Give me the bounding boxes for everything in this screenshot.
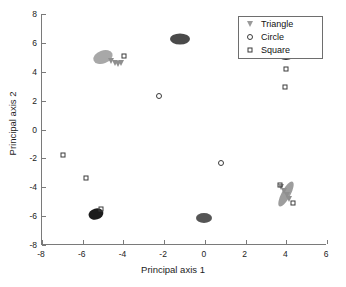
y-tick — [42, 14, 46, 15]
x-tick — [246, 240, 247, 244]
y-tick — [42, 187, 46, 188]
y-axis-label: Principal axis 2 — [7, 59, 18, 189]
x-tick — [286, 240, 287, 244]
x-tick-label: -6 — [78, 249, 86, 259]
data-point-circle — [156, 93, 162, 99]
x-tick — [83, 240, 84, 244]
y-tick-label: 0 — [17, 125, 37, 135]
x-tick-label: -8 — [37, 249, 45, 259]
legend: Triangle Circle Square — [238, 16, 323, 59]
x-tick-label: 0 — [201, 249, 206, 259]
y-tick — [42, 101, 46, 102]
data-point-square — [291, 201, 296, 206]
x-tick — [327, 240, 328, 244]
x-tick — [42, 240, 43, 244]
y-tick — [42, 216, 46, 217]
data-point-square — [61, 153, 66, 158]
x-tick-label: 4 — [283, 249, 288, 259]
y-tick-label: -2 — [17, 153, 37, 163]
y-tick-label: -4 — [17, 182, 37, 192]
x-tick-label: 6 — [324, 249, 329, 259]
x-tick-label: -4 — [119, 249, 127, 259]
x-tick-label: 2 — [242, 249, 247, 259]
y-tick-label: 2 — [17, 96, 37, 106]
data-point-triangle-down — [118, 60, 124, 66]
y-tick-label: -8 — [17, 240, 37, 250]
y-tick-label: 8 — [17, 9, 37, 19]
x-tick — [164, 240, 165, 244]
circle-icon — [239, 30, 261, 43]
data-point-square — [277, 182, 282, 187]
x-tick-label: -2 — [159, 249, 167, 259]
y-tick — [42, 245, 46, 246]
y-tick — [42, 72, 46, 73]
triangle-down-icon — [239, 17, 261, 30]
square-icon — [239, 43, 261, 56]
x-tick — [123, 240, 124, 244]
x-axis-label: Principal axis 1 — [0, 264, 346, 275]
legend-label-circle: Circle — [261, 32, 284, 42]
data-point-square — [99, 206, 104, 211]
legend-item-square: Square — [239, 43, 322, 56]
y-tick-label: 6 — [17, 38, 37, 48]
legend-label-square: Square — [261, 45, 290, 55]
data-point-square — [122, 53, 127, 58]
legend-label-triangle: Triangle — [261, 19, 293, 29]
data-point-square — [283, 84, 288, 89]
data-cluster-blob — [196, 213, 212, 223]
data-point-square — [83, 175, 88, 180]
y-tick — [42, 158, 46, 159]
scatter-plot-figure: Principal axis 2 Principal axis 1 Triang… — [0, 0, 346, 287]
y-tick-label: -6 — [17, 211, 37, 221]
legend-item-circle: Circle — [239, 30, 322, 43]
legend-item-triangle: Triangle — [239, 17, 322, 30]
y-tick — [42, 130, 46, 131]
y-tick — [42, 43, 46, 44]
y-tick-label: 4 — [17, 67, 37, 77]
data-point-square — [284, 66, 289, 71]
x-tick — [205, 240, 206, 244]
data-point-circle — [218, 160, 224, 166]
data-cluster-blob — [170, 33, 190, 44]
